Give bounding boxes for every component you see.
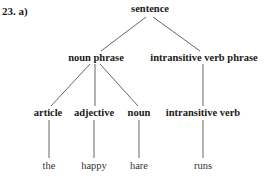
leaf-runs: runs (194, 161, 212, 172)
node-adjective: adjective (74, 108, 114, 119)
leaf-happy: happy (81, 161, 107, 172)
leaf-the: the (43, 161, 56, 172)
node-intransitive-verb: intransitive verb (166, 108, 240, 119)
node-noun: noun (128, 108, 151, 119)
edge-noun-phrase-article (51, 64, 90, 106)
edge-noun-phrase-noun (100, 64, 138, 106)
leaf-hare: hare (130, 161, 148, 172)
edge-sentence-noun-phrase (101, 17, 146, 51)
node-sentence: sentence (131, 4, 169, 15)
problem-label: 23. a) (2, 6, 28, 17)
node-noun-phrase: noun phrase (68, 53, 124, 64)
tree-edges (0, 0, 271, 184)
node-article: article (34, 108, 63, 119)
edge-sentence-verb-phrase (153, 17, 200, 51)
node-intransitive-verb-phrase: intransitive verb phrase (150, 53, 257, 64)
